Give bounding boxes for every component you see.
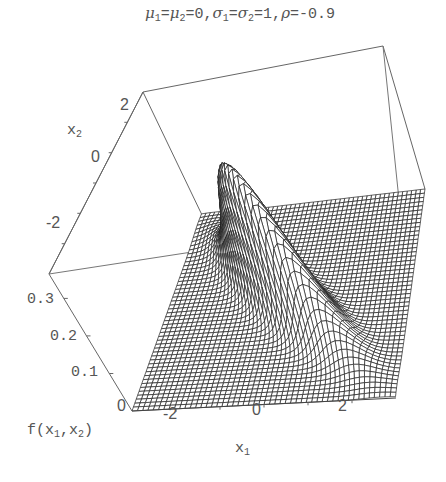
x2-tick-2: 2	[120, 96, 129, 114]
surface-mesh	[132, 163, 425, 411]
z-tick-0: 0	[117, 397, 126, 415]
chart-title: μ1=μ2=0,σ1=σ2=1,ρ=-0.9	[145, 4, 335, 24]
box-back-left-edge	[143, 92, 202, 215]
z-tick-0.3: 0.3	[27, 291, 54, 308]
x1-tick-0: 0	[252, 401, 261, 419]
z-axis-label: f(x1,x2)	[27, 422, 93, 440]
box-back-right-edge	[383, 46, 425, 189]
x1-axis-label: x1	[235, 440, 250, 458]
x2-axis-label: x2	[67, 122, 82, 140]
x1-tick-2: 2	[338, 397, 347, 415]
z-tick-0.2: 0.2	[50, 328, 77, 345]
box-inner-edge-right	[383, 46, 398, 192]
surface-plot	[0, 0, 446, 482]
z-tick-0.1: 0.1	[71, 364, 98, 381]
x1-tick-neg2: -2	[163, 405, 177, 423]
x2-tick-neg2: -2	[46, 214, 60, 232]
x2-tick-0: 0	[91, 148, 100, 166]
